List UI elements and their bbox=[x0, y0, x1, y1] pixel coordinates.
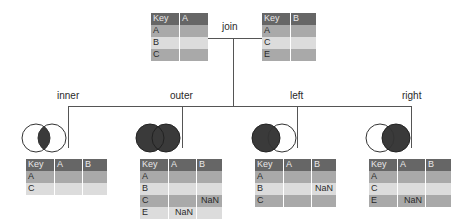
cell: A bbox=[140, 171, 169, 183]
table-row: C bbox=[255, 195, 336, 207]
cell bbox=[284, 195, 312, 207]
cell bbox=[180, 37, 209, 49]
column-header: Key bbox=[255, 159, 284, 171]
right-input-table: KeyB A C E bbox=[262, 13, 316, 61]
table-row: C bbox=[369, 183, 451, 195]
cell bbox=[169, 171, 197, 183]
cell bbox=[398, 171, 426, 183]
cell bbox=[180, 25, 209, 37]
column-header: B bbox=[83, 159, 108, 171]
cell: NaN bbox=[169, 207, 197, 219]
column-header: B bbox=[426, 159, 452, 171]
join-label: join bbox=[222, 21, 238, 32]
cell bbox=[291, 37, 317, 49]
cell: B bbox=[255, 183, 284, 195]
table-row: CNaN bbox=[140, 195, 222, 207]
cell: A bbox=[369, 171, 398, 183]
outer-result-table: KeyAB A B CNaN ENaN bbox=[140, 159, 222, 219]
cell bbox=[312, 171, 337, 183]
cell bbox=[197, 171, 223, 183]
right-result-table: KeyAB A C ENaN bbox=[369, 159, 451, 207]
cell bbox=[426, 183, 452, 195]
inner-join-label: inner bbox=[57, 90, 79, 101]
column-header: A bbox=[180, 13, 209, 25]
cell: A bbox=[151, 25, 180, 37]
column-header: Key bbox=[262, 13, 291, 25]
venn-outer-icon bbox=[136, 124, 180, 152]
cell: B bbox=[151, 37, 180, 49]
left-join-label: left bbox=[290, 90, 303, 101]
cell: C bbox=[255, 195, 284, 207]
cell: A bbox=[26, 171, 55, 183]
column-header: Key bbox=[26, 159, 55, 171]
cell: E bbox=[262, 49, 291, 61]
column-header: B bbox=[291, 13, 317, 25]
cell bbox=[291, 25, 317, 37]
cell: A bbox=[255, 171, 284, 183]
cell bbox=[426, 171, 452, 183]
cell: E bbox=[140, 207, 169, 219]
table-row: A bbox=[26, 171, 107, 183]
cell bbox=[83, 171, 108, 183]
cell bbox=[284, 183, 312, 195]
table-row: C bbox=[26, 183, 107, 195]
table-row: B bbox=[151, 37, 208, 49]
cell: C bbox=[140, 195, 169, 207]
cell: B bbox=[140, 183, 169, 195]
right-join-label: right bbox=[402, 90, 421, 101]
column-header: A bbox=[169, 159, 197, 171]
cell bbox=[169, 195, 197, 207]
cell: NaN bbox=[398, 195, 426, 207]
cell: C bbox=[262, 37, 291, 49]
cell bbox=[197, 183, 223, 195]
cell bbox=[291, 49, 317, 61]
column-header: A bbox=[284, 159, 312, 171]
column-header: Key bbox=[140, 159, 169, 171]
cell: C bbox=[369, 183, 398, 195]
venn-left-icon bbox=[252, 124, 296, 152]
table-row: BNaN bbox=[255, 183, 336, 195]
cell bbox=[312, 195, 337, 207]
table-row: C bbox=[151, 49, 208, 61]
column-header: B bbox=[197, 159, 223, 171]
cell bbox=[83, 183, 108, 195]
table-row: ENaN bbox=[140, 207, 222, 219]
left-result-table: KeyAB A BNaN C bbox=[255, 159, 336, 207]
cell bbox=[55, 171, 83, 183]
table-row: B bbox=[140, 183, 222, 195]
outer-join-label: outer bbox=[170, 90, 193, 101]
inner-result-table: KeyAB A C bbox=[26, 159, 107, 195]
table-row: A bbox=[140, 171, 222, 183]
cell bbox=[197, 207, 223, 219]
table-row: A bbox=[369, 171, 451, 183]
cell: NaN bbox=[312, 183, 337, 195]
cell: NaN bbox=[197, 195, 223, 207]
table-row: E bbox=[262, 49, 316, 61]
column-header: Key bbox=[369, 159, 398, 171]
venn-right-icon bbox=[366, 124, 410, 152]
left-input-table: KeyA A B C bbox=[151, 13, 208, 61]
cell: C bbox=[26, 183, 55, 195]
cell bbox=[426, 195, 452, 207]
cell bbox=[55, 183, 83, 195]
table-row: A bbox=[151, 25, 208, 37]
column-header: A bbox=[55, 159, 83, 171]
cell bbox=[180, 49, 209, 61]
column-header: A bbox=[398, 159, 426, 171]
column-header: Key bbox=[151, 13, 180, 25]
cell: E bbox=[369, 195, 398, 207]
cell bbox=[398, 183, 426, 195]
cell bbox=[284, 171, 312, 183]
table-row: ENaN bbox=[369, 195, 451, 207]
table-row: A bbox=[262, 25, 316, 37]
table-row: A bbox=[255, 171, 336, 183]
cell: C bbox=[151, 49, 180, 61]
column-header: B bbox=[312, 159, 337, 171]
venn-inner-icon bbox=[22, 124, 66, 152]
cell: A bbox=[262, 25, 291, 37]
table-row: C bbox=[262, 37, 316, 49]
cell bbox=[169, 183, 197, 195]
